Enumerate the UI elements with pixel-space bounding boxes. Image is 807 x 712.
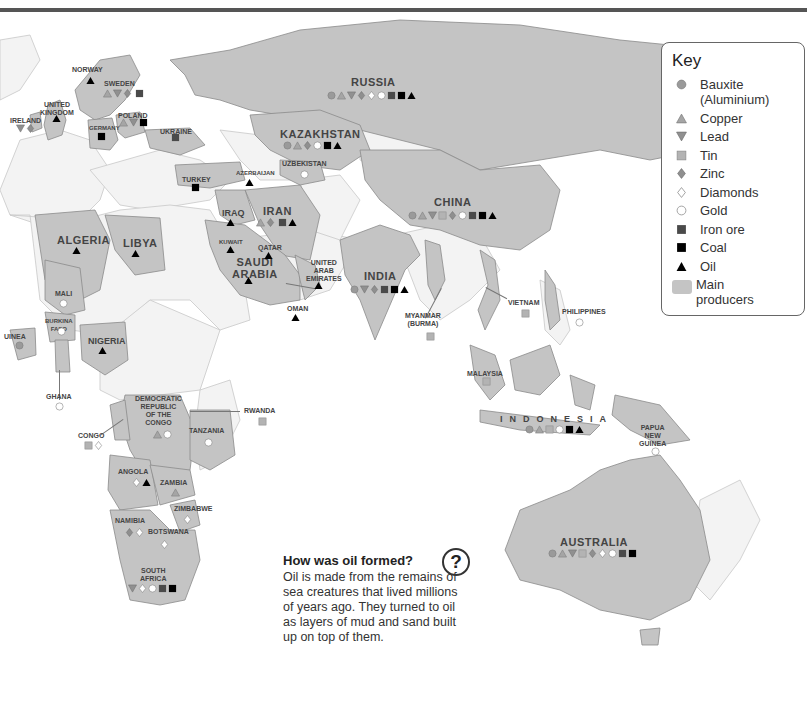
lead-icon — [347, 91, 356, 100]
symbols-qatar — [264, 251, 273, 260]
diamonds-icon — [598, 549, 607, 558]
bauxite-icon — [672, 77, 700, 90]
coal-icon — [168, 584, 177, 593]
label-sweden: SWEDEN — [104, 80, 135, 88]
symbols-philippines — [575, 318, 584, 327]
diamonds-icon — [132, 478, 141, 487]
label-iran: IRAN — [263, 205, 292, 217]
zinc-icon — [672, 166, 700, 179]
oil-icon — [291, 313, 300, 322]
label-iraq: IRAQ — [222, 208, 245, 218]
key-label: Oil — [700, 259, 716, 274]
rwanda-leader-line — [190, 411, 240, 412]
symbols-algeria — [72, 246, 81, 255]
symbols-russia — [327, 91, 416, 100]
symbols-ghana — [55, 402, 64, 411]
oil-icon — [333, 141, 342, 150]
gold-icon — [672, 203, 700, 216]
oil-icon — [98, 346, 107, 355]
label-south-africa: SOUTH AFRICA — [140, 567, 166, 583]
oil-icon — [488, 211, 497, 220]
oil-icon — [52, 114, 61, 123]
oil-icon — [142, 478, 151, 487]
key-label: Iron ore — [700, 222, 745, 237]
copper-icon — [293, 141, 302, 150]
symbols-china — [408, 211, 497, 220]
iron-ore-icon — [380, 285, 389, 294]
oil-icon — [226, 245, 235, 254]
symbols-oman — [291, 313, 300, 322]
copper-icon — [558, 549, 567, 558]
iron-ore-icon — [387, 91, 396, 100]
label-congo: CONGO — [78, 432, 104, 440]
copper-icon — [119, 118, 128, 127]
iron-ore-icon — [468, 211, 477, 220]
label-uae: UNITED ARAB EMIRATES — [306, 259, 342, 283]
label-guinea: UINEA — [4, 333, 26, 341]
gold-icon — [313, 141, 322, 150]
key-label: Diamonds — [700, 185, 759, 200]
coal-icon — [672, 240, 700, 253]
lead-icon — [128, 584, 137, 593]
symbols-india — [350, 285, 409, 294]
zinc-icon — [266, 218, 275, 227]
coal-icon — [565, 425, 574, 434]
symbols-vietnam — [521, 309, 530, 318]
label-china: CHINA — [434, 196, 471, 208]
key-row-main-producers: Main producers — [672, 277, 794, 307]
symbols-uae — [314, 281, 323, 290]
key-row-oil: Oil — [672, 259, 794, 274]
gold-icon — [651, 447, 660, 456]
coal-icon — [628, 549, 637, 558]
symbols-drc — [153, 430, 172, 439]
coal-icon — [139, 118, 148, 127]
diamonds-icon — [160, 540, 169, 549]
gold-icon — [555, 425, 564, 434]
diamonds-icon — [94, 441, 103, 450]
label-mali: MALI — [55, 290, 72, 298]
lead-icon — [428, 211, 437, 220]
key-row-zinc: Zinc — [672, 166, 794, 181]
gold-icon — [59, 299, 68, 308]
zinc-icon — [303, 141, 312, 150]
gold-icon — [300, 170, 309, 179]
coal-icon — [97, 132, 106, 141]
key-row-lead: Lead — [672, 129, 794, 144]
key-row-copper: Copper — [672, 111, 794, 126]
iron-ore-icon — [158, 584, 167, 593]
label-russia: RUSSIA — [351, 76, 396, 88]
symbols-rwanda — [258, 417, 267, 426]
label-nigeria: NIGERIA — [88, 336, 126, 346]
info-title: How was oil formed? — [283, 553, 463, 568]
label-zimbabwe: ZIMBABWE — [174, 505, 213, 513]
zinc-icon — [448, 211, 457, 220]
gold-icon — [204, 438, 213, 447]
coal-icon — [478, 211, 487, 220]
label-germany: GERMANY — [89, 124, 120, 132]
copper-icon — [337, 91, 346, 100]
label-tanzania: TANZANIA — [189, 427, 224, 435]
diamonds-icon — [367, 91, 376, 100]
diamonds-icon — [138, 584, 147, 593]
oil-icon — [245, 178, 254, 187]
oil-icon — [400, 285, 409, 294]
tin-icon — [426, 332, 435, 341]
symbols-norway — [86, 76, 95, 85]
symbols-malaysia — [482, 377, 491, 386]
key-label: Zinc — [700, 166, 725, 181]
symbols-sweden — [103, 89, 144, 98]
bauxite-icon — [327, 91, 336, 100]
bauxite-icon — [350, 285, 359, 294]
map-key: Key Bauxite (Aluminium) Copper Lead Tin … — [661, 42, 805, 316]
symbols-kazakhstan — [283, 141, 342, 150]
label-rwanda: RWANDA — [244, 407, 275, 415]
label-drc: DEMOCRATIC REPUBLIC OF THE CONGO — [135, 395, 182, 427]
symbols-zambia — [171, 488, 180, 497]
symbols-mali — [59, 299, 68, 308]
label-azerbaijan: AZERBAIJAN — [236, 169, 275, 177]
symbols-iran — [256, 218, 297, 227]
gold-icon — [55, 402, 64, 411]
label-zambia: ZAMBIA — [160, 479, 187, 487]
gold-icon — [148, 584, 157, 593]
label-namibia: NAMIBIA — [115, 517, 145, 525]
